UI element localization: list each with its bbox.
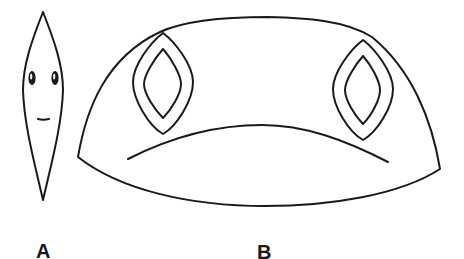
panel-a-shape [23, 12, 63, 200]
panel-b-eye-left-inner [144, 49, 181, 118]
panel-label-b: B [257, 242, 271, 259]
spindle-outline [23, 12, 63, 200]
panel-a-mouth [38, 119, 49, 120]
dome-outline [78, 17, 440, 206]
panel-a-eye-left [28, 71, 35, 85]
panel-a-eye-right [51, 71, 58, 85]
panel-b-eye-right-inner [345, 56, 380, 124]
panel-b-shape [78, 17, 440, 206]
diagram-figure [0, 0, 464, 259]
panel-label-a: A [36, 241, 50, 259]
